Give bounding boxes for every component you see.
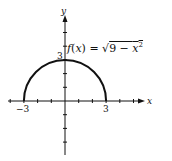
function-graph: y x −3 3 3: [0, 0, 172, 161]
x-axis-label: x: [147, 96, 152, 106]
x-tick-label-3: 3: [103, 104, 109, 114]
y-axis-arrow-icon: [63, 15, 68, 22]
y-tick-label-3: 3: [57, 51, 63, 61]
x-tick-label-neg3: −3: [16, 104, 30, 114]
x-axis-arrow-icon: [138, 99, 145, 104]
y-axis-label: y: [60, 6, 67, 16]
eq-exp: 2: [139, 41, 143, 49]
eq-x: x: [75, 42, 81, 55]
function-equation-label: f(x) = √9 − x2: [67, 41, 143, 55]
eq-f: f: [67, 42, 71, 55]
eq-rest: 9 −: [109, 42, 132, 55]
